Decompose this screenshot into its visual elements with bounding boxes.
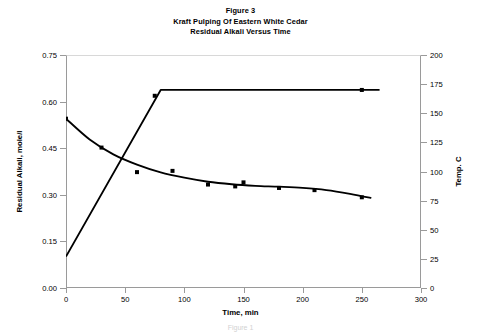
y-right-tick: [421, 142, 427, 143]
data-point-marker: [360, 88, 364, 92]
x-tick: [66, 288, 67, 293]
x-tick-label: 100: [178, 295, 191, 304]
y-right-tick-label: 175: [430, 80, 443, 89]
y-right-tick-label: 50: [430, 225, 438, 234]
plot-area: 0.000.150.300.450.600.750255075100125150…: [66, 55, 421, 288]
x-tick: [421, 288, 422, 293]
y-right-tick: [421, 230, 427, 231]
data-point-marker: [242, 180, 246, 184]
title-line-3: Residual Alkali Versus Time: [0, 27, 481, 38]
y-right-tick: [421, 84, 427, 85]
chart-title-block: Figure 3 Kraft Pulping Of Eastern White …: [0, 6, 481, 38]
x-axis-title: Time, min: [0, 308, 481, 317]
data-series-layer: [66, 55, 421, 288]
y-left-tick-label: 0.45: [42, 144, 57, 153]
y-axis-right-title: Temp. C: [452, 55, 464, 288]
y-right-tick: [421, 201, 427, 202]
y-right-tick-label: 25: [430, 254, 438, 263]
y-left-tick-label: 0.00: [42, 284, 57, 293]
series-line-1: [66, 90, 380, 257]
y-left-tick: [60, 241, 66, 242]
x-tick: [184, 288, 185, 293]
x-tick-label: 0: [64, 295, 68, 304]
y-left-tick-label: 0.15: [42, 237, 57, 246]
x-tick: [303, 288, 304, 293]
y-right-tick-label: 200: [430, 51, 443, 60]
x-tick-label: 200: [296, 295, 309, 304]
y-right-tick-label: 0: [430, 284, 434, 293]
x-tick-label: 300: [415, 295, 428, 304]
data-point-marker: [360, 195, 364, 199]
data-point-marker: [313, 188, 317, 192]
data-point-marker: [153, 94, 157, 98]
y-right-tick-label: 125: [430, 138, 443, 147]
y-right-tick-label: 150: [430, 109, 443, 118]
y-right-tick: [421, 113, 427, 114]
y-left-tick: [60, 195, 66, 196]
title-line-1: Figure 3: [0, 6, 481, 17]
y-left-tick-label: 0.60: [42, 97, 57, 106]
data-point-marker: [206, 183, 210, 187]
x-tick: [362, 288, 363, 293]
y-right-tick: [421, 55, 427, 56]
y-axis-left-title: Residual Alkali, mole/l: [13, 55, 25, 288]
y-right-tick-label: 100: [430, 167, 443, 176]
y-right-tick: [421, 259, 427, 260]
x-tick-label: 250: [355, 295, 368, 304]
y-left-tick-label: 0.30: [42, 190, 57, 199]
y-left-tick-label: 0.75: [42, 51, 57, 60]
y-right-tick-label: 75: [430, 196, 438, 205]
data-point-marker: [135, 170, 139, 174]
data-point-marker: [66, 117, 68, 121]
data-point-marker: [233, 184, 237, 188]
footer-partial-text: Figure 1: [0, 324, 481, 331]
y-left-tick: [60, 148, 66, 149]
x-tick: [125, 288, 126, 293]
data-point-marker: [171, 169, 175, 173]
series-line-0: [66, 119, 371, 198]
x-tick-label: 150: [237, 295, 250, 304]
x-tick-label: 50: [121, 295, 129, 304]
figure-canvas: Figure 3 Kraft Pulping Of Eastern White …: [0, 0, 481, 332]
y-right-tick: [421, 172, 427, 173]
x-tick: [244, 288, 245, 293]
y-left-tick: [60, 55, 66, 56]
y-left-tick: [60, 102, 66, 103]
data-point-marker: [100, 146, 104, 150]
data-point-marker: [277, 186, 281, 190]
title-line-2: Kraft Pulping Of Eastern White Cedar: [0, 17, 481, 28]
